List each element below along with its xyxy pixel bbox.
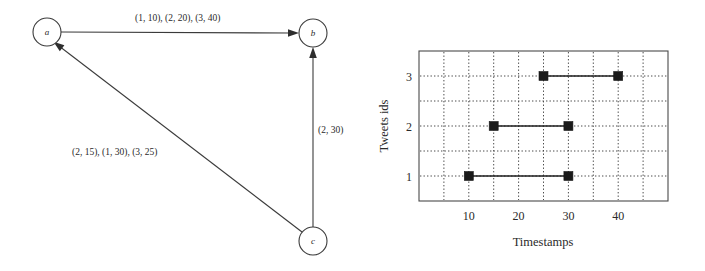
graph-node-a-label: a <box>45 27 50 37</box>
edge-c-to-a-label: (2, 15), (1, 30), (3, 25) <box>72 147 157 158</box>
edge-c-to-a: (2, 15), (1, 30), (3, 25) <box>54 42 303 232</box>
graph-node-b[interactable]: b <box>299 19 327 47</box>
tweets-timeline-chart-panel: 10203040 123 Timestamps Tweets ids <box>370 0 705 271</box>
temporal-graph-panel: (1, 10), (2, 20), (3, 40) (2, 15), (1, 3… <box>0 0 380 271</box>
edge-c-to-b-arrowhead-icon <box>309 47 317 58</box>
edge-a-to-b-arrowhead-icon <box>288 29 299 37</box>
edge-a-to-b-line <box>61 32 292 33</box>
series-marker <box>564 122 573 131</box>
edge-c-to-a-line <box>59 46 302 232</box>
graph-svg: (1, 10), (2, 20), (3, 40) (2, 15), (1, 3… <box>0 0 380 271</box>
y-tick-label: 2 <box>406 120 412 134</box>
series-marker <box>564 172 573 181</box>
edge-a-to-b-label: (1, 10), (2, 20), (3, 40) <box>135 13 220 24</box>
x-tick-label: 40 <box>612 209 624 223</box>
series-marker <box>489 122 498 131</box>
graph-node-b-label: b <box>311 28 316 38</box>
edge-c-to-b-label: (2, 30) <box>318 125 343 136</box>
series-marker <box>464 172 473 181</box>
x-tick-label: 10 <box>463 209 475 223</box>
graph-node-c[interactable]: c <box>299 227 327 255</box>
y-tick-labels: 123 <box>406 70 412 184</box>
x-axis-title: Timestamps <box>513 235 574 249</box>
graph-node-a[interactable]: a <box>33 18 61 46</box>
y-tick-label: 1 <box>406 170 412 184</box>
series-marker <box>539 72 548 81</box>
x-tick-labels: 10203040 <box>463 209 624 223</box>
y-tick-label: 3 <box>406 70 412 84</box>
figure-root: (1, 10), (2, 20), (3, 40) (2, 15), (1, 3… <box>0 0 705 271</box>
edge-c-to-b: (2, 30) <box>309 47 343 227</box>
edge-a-to-b: (1, 10), (2, 20), (3, 40) <box>61 13 299 37</box>
graph-node-c-label: c <box>311 236 315 246</box>
chart-svg: 10203040 123 Timestamps Tweets ids <box>370 0 705 271</box>
series-marker <box>614 72 623 81</box>
y-axis-title: Tweets ids <box>377 99 391 152</box>
x-tick-label: 20 <box>513 209 525 223</box>
x-tick-label: 30 <box>562 209 574 223</box>
